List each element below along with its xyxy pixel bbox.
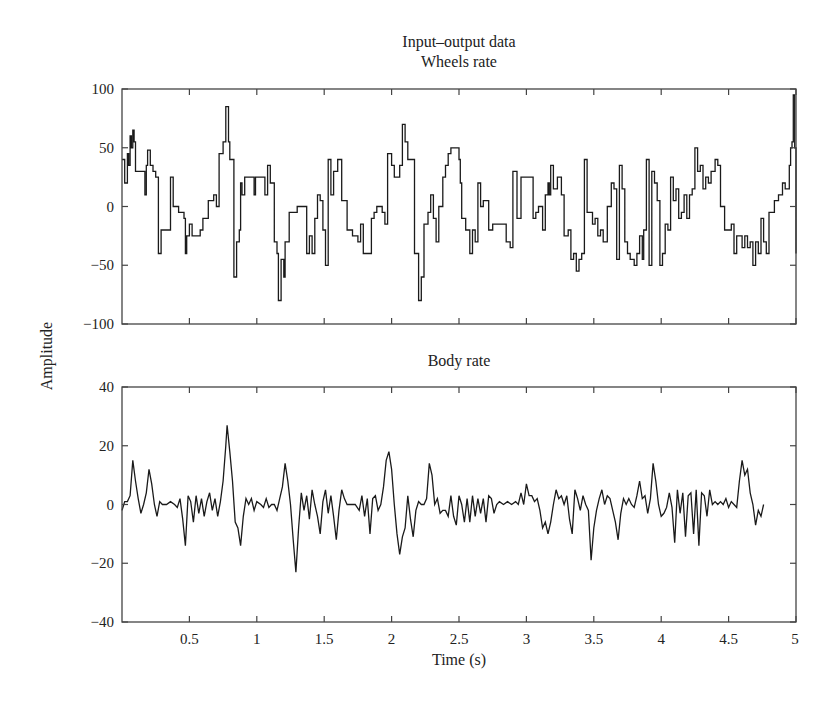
y-tick-label: −100 bbox=[83, 316, 114, 332]
wheels-rate-trace bbox=[122, 95, 796, 301]
y-tick-label: −20 bbox=[91, 555, 114, 571]
figure-title: Input–output data bbox=[402, 33, 515, 51]
y-axis-label: Amplitude bbox=[38, 322, 56, 390]
x-tick-label: 4.5 bbox=[719, 631, 738, 647]
body-rate-trace bbox=[122, 425, 764, 572]
y-tick-label: 0 bbox=[107, 199, 115, 215]
x-tick-label: 1.5 bbox=[315, 631, 334, 647]
y-tick-label: 100 bbox=[92, 81, 115, 97]
y-tick-label: 20 bbox=[99, 438, 114, 454]
x-tick-label: 4 bbox=[657, 631, 665, 647]
y-tick-label: 0 bbox=[107, 497, 115, 513]
y-tick-label: −40 bbox=[91, 614, 114, 630]
body-rate-title: Body rate bbox=[428, 352, 491, 370]
x-tick-label: 2 bbox=[388, 631, 396, 647]
figure: Input–output data Wheels rate Body rate … bbox=[0, 0, 838, 709]
wheels-axes-frame bbox=[122, 89, 796, 324]
body-rate-panel: 0.511.522.533.544.5540200−20−40 bbox=[91, 379, 799, 647]
y-tick-label: 50 bbox=[99, 140, 114, 156]
x-tick-label: 5 bbox=[791, 631, 799, 647]
wheels-rate-title: Wheels rate bbox=[421, 53, 497, 70]
y-tick-label: 40 bbox=[99, 379, 114, 395]
x-tick-label: 3.5 bbox=[584, 631, 603, 647]
x-tick-label: 2.5 bbox=[450, 631, 469, 647]
y-tick-label: −50 bbox=[91, 257, 114, 273]
x-tick-label: 3 bbox=[523, 631, 531, 647]
wheels-rate-panel: 100500−50−100 bbox=[83, 81, 796, 332]
x-tick-label: 0.5 bbox=[180, 631, 199, 647]
x-tick-label: 1 bbox=[253, 631, 261, 647]
x-axis-label: Time (s) bbox=[432, 651, 486, 669]
